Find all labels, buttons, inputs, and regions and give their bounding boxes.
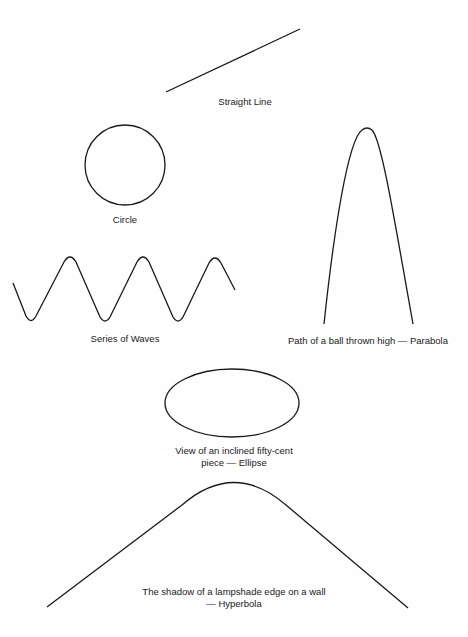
waves-shape <box>13 257 235 321</box>
parabola-label: Path of a ball thrown high — Parabola <box>278 335 458 347</box>
ellipse-label-line2: piece — Ellipse <box>152 457 316 469</box>
straight-line-label: Straight Line <box>190 96 300 108</box>
parabola-shape <box>324 128 413 324</box>
circle-shape <box>85 125 165 205</box>
conic-sections-figure: Straight Line Circle Series of Waves Pat… <box>0 0 468 637</box>
ellipse-shape <box>165 369 299 437</box>
ellipse-label-line1: View of an inclined fifty-cent <box>152 445 316 457</box>
hyperbola-label-line1: The shadow of a lampshade edge on a wall <box>124 586 344 598</box>
straight-line-shape <box>166 29 300 92</box>
circle-label: Circle <box>95 214 155 226</box>
hyperbola-label-line2: — Hyperbola <box>124 598 344 610</box>
waves-label: Series of Waves <box>60 333 190 345</box>
